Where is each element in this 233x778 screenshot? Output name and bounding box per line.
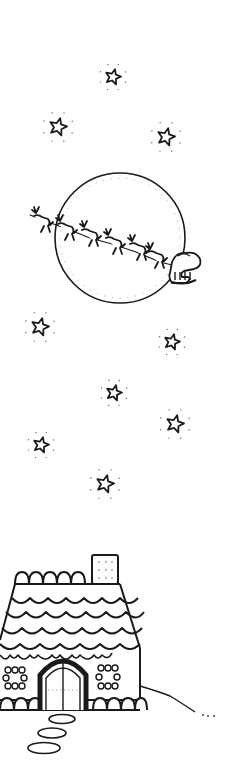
star-icon [50, 118, 67, 135]
reindeer-team [30, 207, 176, 268]
star-icon [106, 69, 121, 84]
path-stone [28, 743, 60, 754]
reindeer [104, 229, 125, 254]
chimney [92, 555, 118, 584]
star-icon [97, 475, 114, 492]
star-icon [167, 415, 184, 432]
stars-group [25, 64, 190, 499]
star-icon [158, 128, 175, 145]
star-icon [32, 318, 49, 335]
window-right [96, 665, 120, 689]
reindeer [146, 243, 167, 268]
path-stone [49, 715, 75, 724]
reindeer [32, 207, 53, 232]
path-stone [38, 728, 66, 738]
reindeer [56, 215, 77, 240]
star-icon [165, 334, 180, 349]
star-icon [107, 385, 122, 400]
reindeer [80, 221, 101, 246]
window-left [3, 667, 27, 689]
star-icon [34, 437, 49, 452]
santa-sleigh [169, 253, 200, 284]
gingerbread-house [0, 555, 215, 754]
illustration-canvas [0, 0, 233, 778]
moon [55, 173, 185, 303]
